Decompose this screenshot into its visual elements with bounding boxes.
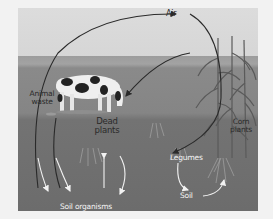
label-dead-plants-line2: plants [90, 126, 124, 135]
flow-arrows-light [38, 156, 224, 196]
label-animal-waste-line2: waste [28, 98, 56, 106]
label-soil: Soil [180, 192, 193, 200]
label-air: Air [166, 10, 176, 18]
nitrogen-cycle-diagram: Air Animal waste Dead plants Corn plants… [18, 8, 258, 211]
label-dead-plants: Dead plants [90, 117, 124, 135]
label-soil-organisms: Soil organisms [60, 203, 112, 211]
scene-illustration [18, 8, 258, 211]
cow-illustration [46, 75, 123, 116]
corn-plants-illustration [196, 36, 256, 158]
label-animal-waste: Animal waste [28, 90, 56, 106]
label-corn-plants: Corn plants [226, 118, 256, 134]
label-legumes: Legumes [170, 154, 203, 162]
label-corn-plants-line2: plants [226, 126, 256, 134]
